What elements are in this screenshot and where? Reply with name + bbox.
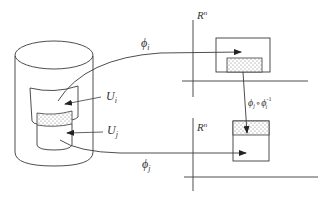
bottom-overlap-region (233, 121, 269, 135)
U-i-pointer-arrow (65, 97, 101, 104)
manifold-chart-diagram: ϕi ϕj Ui Uj Rn Rn ϕj∘ϕ-1i (0, 0, 329, 203)
Rn-bottom-label: Rn (196, 121, 208, 133)
Rn-top-label: Rn (196, 9, 208, 21)
overlap-region-manifold (37, 111, 72, 126)
manifold-cylinder (15, 41, 93, 166)
transition-map-label: ϕj∘ϕ-1i (248, 96, 271, 110)
cylinder-bottom-arc (15, 152, 93, 166)
U-j-label: Uj (107, 123, 119, 139)
cylinder-top-ellipse (15, 41, 93, 69)
top-overlap-region (227, 58, 262, 72)
phi-i-label: ϕi (141, 36, 149, 52)
U-i-label: Ui (106, 89, 117, 105)
phi-i-mapping-arrow (58, 52, 241, 101)
phi-j-mapping-arrow (60, 140, 246, 153)
phi-j-label: ϕj (142, 157, 151, 173)
